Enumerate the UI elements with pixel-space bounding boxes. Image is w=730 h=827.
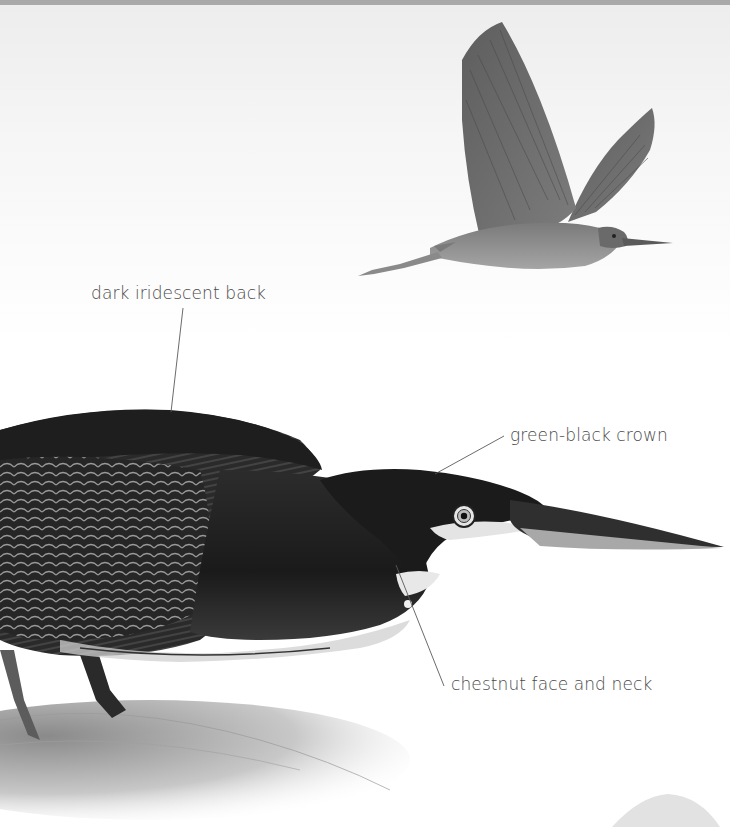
leader-line-crown [435,436,504,474]
heron-illustration [0,0,730,827]
label-green-black-crown: green-black crown [510,425,668,445]
leader-line-back [171,308,183,412]
flying-heron [358,22,673,276]
stalking-heron [0,409,724,820]
label-chestnut-face-and-neck: chestnut face and neck [451,674,652,694]
label-dark-iridescent-back: dark iridescent back [91,283,266,303]
egg-partial [612,794,720,827]
